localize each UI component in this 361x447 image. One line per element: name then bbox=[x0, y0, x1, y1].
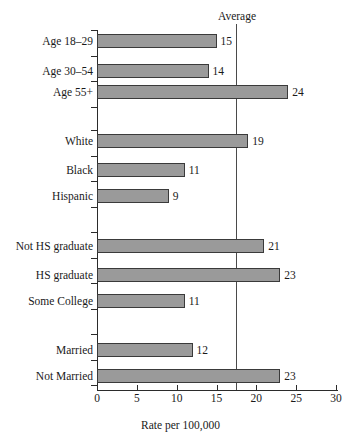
y-axis-tick bbox=[91, 30, 98, 31]
x-axis-tick-label: 20 bbox=[241, 392, 271, 405]
x-axis-tick-label: 0 bbox=[82, 392, 112, 405]
bar bbox=[97, 134, 248, 148]
bar bbox=[97, 343, 193, 357]
y-axis-tick bbox=[91, 360, 98, 361]
category-label: Married bbox=[56, 343, 93, 357]
category-label: Age 18–29 bbox=[42, 34, 93, 48]
x-axis-tick bbox=[137, 385, 138, 391]
category-label: Not Married bbox=[36, 369, 93, 383]
category-label: Age 55+ bbox=[53, 85, 93, 99]
bar bbox=[97, 64, 209, 78]
category-label: Not HS graduate bbox=[16, 239, 93, 253]
bar-value-label: 23 bbox=[284, 268, 296, 282]
y-axis-line bbox=[97, 30, 98, 390]
bar bbox=[97, 369, 280, 383]
y-axis-tick bbox=[91, 107, 98, 108]
x-axis-tick-label: 25 bbox=[281, 392, 311, 405]
x-axis-line bbox=[97, 390, 338, 391]
bar-value-label: 19 bbox=[252, 134, 264, 148]
y-axis-tick bbox=[91, 181, 98, 182]
bar bbox=[97, 294, 185, 308]
bar-value-label: 9 bbox=[173, 189, 179, 203]
bar-value-label: 24 bbox=[292, 85, 304, 99]
bar bbox=[97, 163, 185, 177]
bar-value-label: 14 bbox=[213, 64, 225, 78]
x-axis-tick bbox=[217, 385, 218, 391]
average-line-label: Average bbox=[206, 10, 268, 23]
category-label: Hispanic bbox=[52, 189, 93, 203]
y-axis-tick bbox=[91, 56, 98, 57]
category-label: White bbox=[65, 134, 93, 148]
y-axis-tick bbox=[91, 309, 98, 310]
category-label: Age 30–54 bbox=[42, 64, 93, 78]
bar bbox=[97, 268, 280, 282]
bar-value-label: 21 bbox=[268, 239, 280, 253]
x-axis-tick-label: 10 bbox=[162, 392, 192, 405]
bar bbox=[97, 239, 264, 253]
x-axis-tick-label: 5 bbox=[122, 392, 152, 405]
y-axis-tick bbox=[91, 81, 98, 82]
x-axis-tick bbox=[256, 385, 257, 391]
x-axis-tick bbox=[97, 385, 98, 391]
category-label: HS graduate bbox=[36, 268, 93, 282]
x-axis-tick-label: 15 bbox=[202, 392, 232, 405]
y-axis-tick bbox=[91, 207, 98, 208]
bar bbox=[97, 85, 288, 99]
y-axis-tick bbox=[91, 258, 98, 259]
category-label: Some College bbox=[28, 294, 93, 308]
bar-value-label: 23 bbox=[284, 369, 296, 383]
x-axis-title: Rate per 100,000 bbox=[0, 418, 361, 432]
bar bbox=[97, 34, 217, 48]
average-reference-line bbox=[236, 24, 237, 390]
bar-value-label: 12 bbox=[197, 343, 209, 357]
x-axis-tick-label: 30 bbox=[321, 392, 351, 405]
x-axis-tick bbox=[177, 385, 178, 391]
bar-value-label: 11 bbox=[189, 294, 200, 308]
y-axis-tick bbox=[91, 232, 98, 233]
category-label: Black bbox=[66, 163, 93, 177]
y-axis-tick bbox=[91, 334, 98, 335]
y-axis-tick bbox=[91, 130, 98, 131]
bar-value-label: 15 bbox=[221, 34, 233, 48]
bar-value-label: 11 bbox=[189, 163, 200, 177]
x-axis-tick bbox=[296, 385, 297, 391]
bar bbox=[97, 189, 169, 203]
y-axis-tick bbox=[91, 156, 98, 157]
y-axis-tick bbox=[91, 283, 98, 284]
x-axis-tick bbox=[336, 385, 337, 391]
bar-chart: Average 15Age 18–2914Age 30–5424Age 55+1… bbox=[0, 0, 361, 447]
